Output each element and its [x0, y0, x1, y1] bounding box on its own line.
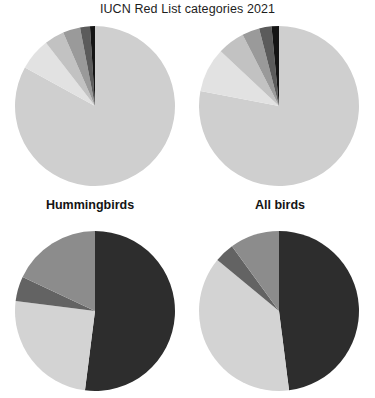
pie-svg-allbirds-redlist [198, 22, 360, 190]
pie-slice [15, 301, 95, 390]
group-label-all-birds: All birds [190, 198, 370, 213]
group-label-hummingbirds: Hummingbirds [0, 198, 180, 213]
pie-chart-allbirds-redlist [198, 22, 360, 190]
pie-chart-hummingbirds-redlist [14, 22, 176, 190]
pie-chart-hummingbirds-trend [14, 227, 176, 395]
pie-slices-hummingbirds-redlist [15, 26, 175, 186]
pie-svg-allbirds-trend [198, 227, 360, 395]
pie-slices-allbirds-trend [199, 231, 359, 391]
pie-chart-allbirds-trend [198, 227, 360, 395]
pie-svg-hummingbirds-trend [14, 227, 176, 395]
pie-svg-hummingbirds-redlist [14, 22, 176, 190]
iucn-red-list-figure: IUCN Red List categories 2021 Hummingbir… [0, 0, 375, 398]
pie-slice [85, 231, 175, 391]
pie-slices-hummingbirds-trend [15, 231, 175, 391]
figure-title: IUCN Red List categories 2021 [0, 2, 375, 16]
pie-slices-allbirds-redlist [199, 26, 359, 186]
pie-slice [279, 231, 359, 390]
